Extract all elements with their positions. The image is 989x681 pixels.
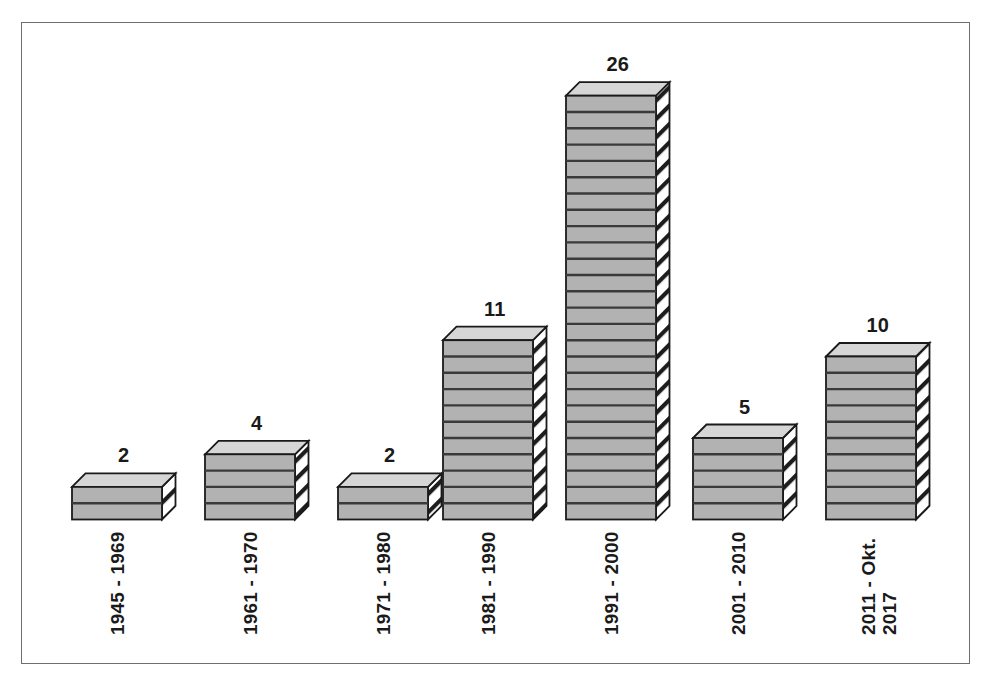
bar-value-label: 5 xyxy=(700,396,790,419)
bar-value-label: 2 xyxy=(345,444,435,467)
bar-value-label: 11 xyxy=(450,298,540,321)
bar-value-label: 2 xyxy=(79,444,169,467)
category-tick-label: 1945 - 1969 xyxy=(108,531,129,635)
bar-value-label: 26 xyxy=(573,53,663,76)
category-tick-label: 2011 - Okt. 2017 xyxy=(859,537,900,634)
bar-value-label: 10 xyxy=(833,314,923,337)
category-tick-label: 2001 - 2010 xyxy=(729,531,750,635)
category-tick-label: 1971 - 1980 xyxy=(374,531,395,635)
bar-value-label: 4 xyxy=(212,412,302,435)
category-tick-label: 1981 - 1990 xyxy=(479,531,500,635)
category-tick-label: 1961 - 1970 xyxy=(241,531,262,635)
chart-figure: 2421126510 1945 - 19691961 - 19701971 - … xyxy=(0,0,989,681)
category-tick-label: 1991 - 2000 xyxy=(602,531,623,635)
